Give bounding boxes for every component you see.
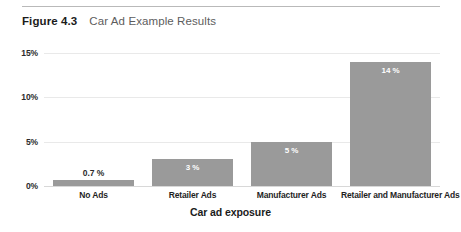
bar-value-label: 0.7 % (53, 168, 134, 178)
x-axis-title: Car ad exposure (0, 206, 461, 218)
y-axis-tick-label: 0% (0, 181, 38, 191)
x-axis-tick-label: Retailer Ads (143, 190, 242, 200)
figure-title: Car Ad Example Results (89, 15, 216, 27)
bar-value-label: 5 % (251, 146, 332, 155)
gridline-15 (44, 53, 440, 54)
x-axis-tick-label: No Ads (44, 190, 143, 200)
y-axis-tick-label: 10% (0, 92, 38, 102)
y-axis-tick-label: 15% (0, 48, 38, 58)
y-axis-tick-label: 5% (0, 137, 38, 147)
bar: 5 % (251, 142, 332, 186)
figure-container: Figure 4.3 Car Ad Example Results 0%5%10… (0, 0, 461, 232)
bar-value-label: 14 % (350, 66, 431, 75)
bar: 0.7 % (53, 180, 134, 186)
x-axis-tick-label: Retailer and Manufacturer Ads (341, 190, 440, 200)
bar: 14 % (350, 62, 431, 186)
figure-number-label: Figure 4.3 (22, 15, 77, 27)
figure-top-rule (22, 6, 440, 7)
bar-value-label: 3 % (152, 163, 233, 172)
x-axis-tick-label: Manufacturer Ads (242, 190, 341, 200)
bar: 3 % (152, 159, 233, 186)
figure-caption: Figure 4.3 Car Ad Example Results (22, 15, 216, 31)
gridline-0 (44, 186, 440, 187)
plot-area: 0.7 %3 %5 %14 % (44, 53, 440, 186)
